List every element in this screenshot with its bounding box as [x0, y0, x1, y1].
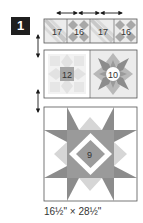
- block-label: 17: [98, 27, 108, 37]
- dimensions-caption: 16½" × 28½": [44, 206, 101, 217]
- block-label: 12: [62, 70, 72, 80]
- quilt-assembly-diagram: 17 16 17 16: [0, 0, 143, 223]
- block-label: 17: [52, 27, 62, 37]
- block-label: 9: [87, 150, 92, 160]
- block-label: 16: [121, 27, 131, 37]
- block-label: 16: [74, 27, 84, 37]
- middle-row: 12 10: [44, 50, 137, 98]
- block-label: 10: [108, 70, 118, 80]
- bottom-block-9: 9: [44, 107, 137, 201]
- top-row: 17 16 17 16: [44, 19, 137, 43]
